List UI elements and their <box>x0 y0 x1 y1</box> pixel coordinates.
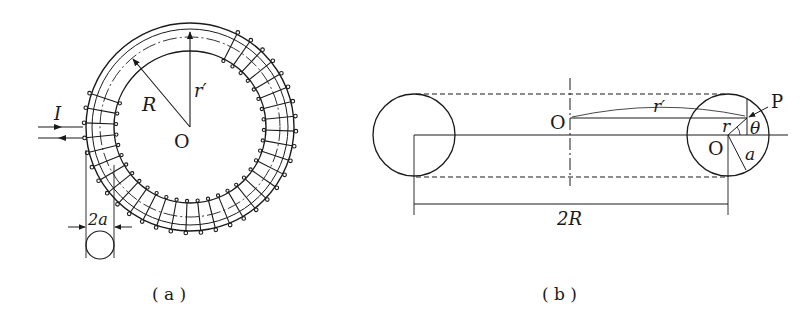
theta-arc <box>737 127 740 135</box>
figure-b-section <box>373 78 788 215</box>
label-2R: 2R <box>556 208 582 229</box>
label-a: a <box>745 144 755 164</box>
figure-a-toroid <box>38 23 298 259</box>
label-O-main: O <box>550 111 566 133</box>
label-r-prime-b: r′ <box>653 96 665 116</box>
r-line <box>728 118 747 135</box>
tube-radius-a-line <box>728 135 746 170</box>
caption-b: ( b ) <box>542 284 577 304</box>
label-O-tube: O <box>708 137 724 159</box>
cross-section-circle <box>86 231 114 259</box>
current-out-arrow-icon <box>58 135 66 141</box>
label-r: r <box>722 116 731 136</box>
label-center-O: O <box>174 130 190 152</box>
label-r-prime: r′ <box>194 80 207 101</box>
caption-a: ( a ) <box>152 284 186 304</box>
label-theta: θ <box>750 118 760 138</box>
figure-canvas: I R r′ O 2a O r′ P r θ O <box>0 0 812 321</box>
label-current-I: I <box>53 103 62 124</box>
label-P: P <box>771 91 783 112</box>
label-2a: 2a <box>87 210 108 229</box>
current-in-arrow-icon <box>54 124 62 130</box>
label-R: R <box>141 93 156 115</box>
